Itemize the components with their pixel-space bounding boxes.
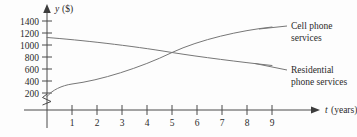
x-tick-label-3: 3 — [120, 118, 125, 128]
y-tick-label-600: 600 — [25, 65, 40, 75]
leader-line-residential-phone-services — [255, 64, 287, 71]
chart-figure: 1400 1200 1000 800 600 400 200 1 2 3 4 5… — [0, 0, 357, 137]
x-axis-title-variable: t — [325, 105, 328, 115]
leader-line-cell-phone-services — [259, 26, 287, 29]
y-axis-title-variable: y — [54, 4, 60, 14]
y-tick-label-400: 400 — [25, 77, 40, 87]
x-tick-label-2: 2 — [95, 118, 100, 128]
x-tick-label-9: 9 — [270, 118, 275, 128]
y-tick-label-1400: 1400 — [20, 17, 39, 27]
series-label-cell-phone-services-line1: Cell phone — [291, 21, 332, 31]
x-axis-arrowhead — [311, 106, 320, 113]
y-tick-label-800: 800 — [25, 53, 40, 63]
y-axis-title-unit: ($) — [62, 4, 73, 15]
series-line-residential-phone-services — [47, 38, 272, 66]
chart-canvas: 1400 1200 1000 800 600 400 200 1 2 3 4 5… — [0, 0, 357, 137]
x-tick-label-4: 4 — [145, 118, 150, 128]
y-axis-arrowhead — [43, 4, 51, 13]
series-label-residential-phone-services-line2: phone services — [291, 77, 347, 87]
y-tick-label-1000: 1000 — [20, 41, 39, 51]
x-tick-label-7: 7 — [220, 118, 225, 128]
x-tick-label-5: 5 — [170, 118, 175, 128]
series-label-residential-phone-services-line1: Residential — [291, 65, 334, 75]
series-label-cell-phone-services-line2: services — [291, 33, 322, 43]
x-tick-label-6: 6 — [195, 118, 200, 128]
y-tick-label-200: 200 — [25, 89, 40, 99]
x-tick-label-1: 1 — [70, 118, 75, 128]
x-axis-title-unit: (years) — [331, 105, 357, 116]
y-tick-label-1200: 1200 — [20, 29, 39, 39]
x-tick-label-8: 8 — [245, 118, 250, 128]
